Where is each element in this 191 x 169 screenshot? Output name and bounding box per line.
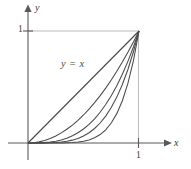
x-axis-label: x (174, 138, 178, 148)
plot-canvas (0, 0, 191, 169)
identity-line-annotation: y = x (61, 59, 85, 70)
x-axis-tick-label-one: 1 (136, 151, 141, 161)
y-axis-arrow-icon (24, 5, 31, 13)
curve-y-equals-x (28, 31, 139, 143)
y-axis-label: y (35, 3, 39, 13)
figure-container: y x 1 1 y = x (0, 0, 191, 169)
y-axis-tick-label-one: 1 (18, 25, 23, 35)
x-axis-arrow-icon (164, 139, 172, 146)
